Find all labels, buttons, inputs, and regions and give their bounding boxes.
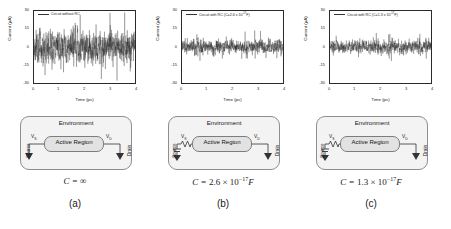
plot-frame-c — [329, 10, 432, 84]
x-tick-b-2: 2 — [227, 86, 237, 91]
source-label-b: Source — [172, 143, 177, 158]
legend-b: Circuit with RC (C=2.6 x 10-17F) — [186, 12, 250, 17]
caption-formula-c: C = 1.3 × 10−17F — [296, 176, 446, 187]
caption-formula-b: C = 2.6 × 10−17F — [148, 176, 298, 187]
x-tick-b-1: 1 — [201, 86, 211, 91]
panel-b: Current (µA) 30 15 0 -15 -30 Circuit wit… — [148, 0, 298, 229]
legend-line-a — [38, 14, 49, 15]
panel-c: Current (µA) 30 15 0 -15 -30 Circuit wit… — [296, 0, 446, 229]
y-tick-b-0: 30 — [161, 7, 177, 12]
circuit-diagram-c: Environment Active Region Source Drain V… — [296, 112, 446, 174]
noise-trace-c — [330, 11, 431, 83]
circuit-diagram-b: Environment Active Region Source Drain V… — [148, 112, 298, 174]
source-label-c: Source — [320, 143, 325, 158]
noise-trace-a — [34, 11, 135, 83]
legend-line-c — [334, 14, 345, 15]
y-tick-a-2: 0 — [13, 44, 29, 49]
y-axis-label-c: Current (µA) — [303, 4, 308, 54]
legend-label-b: Circuit with RC (C=2.6 x 10-17F) — [199, 12, 250, 17]
x-tick-a-4: 4 — [131, 86, 141, 91]
legend-a: Circuit without RC — [38, 12, 80, 16]
x-tick-b-3: 3 — [253, 86, 263, 91]
y-tick-a-4: -30 — [13, 80, 29, 85]
x-tick-a-3: 3 — [105, 86, 115, 91]
plot-c: Current (µA) 30 15 0 -15 -30 Circuit wit… — [296, 0, 446, 110]
panel-a: Current (µA) 30 15 0 -15 -30 Circuit wit… — [0, 0, 150, 229]
y-tick-c-0: 30 — [309, 7, 325, 12]
caption-letter-c: (c) — [296, 198, 446, 209]
vs-label-c: VS — [329, 134, 334, 141]
x-tick-c-1: 1 — [349, 86, 359, 91]
x-tick-c-4: 4 — [427, 86, 437, 91]
x-tick-c-0: 0 — [324, 86, 334, 91]
legend-line-b — [186, 14, 197, 15]
vd-label-a: VD — [106, 134, 112, 141]
x-tick-c-3: 3 — [401, 86, 411, 91]
y-axis-label-b: Current (µA) — [155, 4, 160, 54]
legend-label-c: Circuit with RC (C=1.3 x 10-17F) — [347, 12, 398, 17]
active-region-label-c: Active Region — [340, 139, 400, 145]
y-tick-a-0: 30 — [13, 7, 29, 12]
x-tick-a-0: 0 — [28, 86, 38, 91]
y-tick-a-3: -15 — [13, 62, 29, 67]
x-axis-label-a: Time (ps) — [33, 97, 136, 102]
x-tick-c-2: 2 — [375, 86, 385, 91]
y-tick-b-3: -15 — [161, 62, 177, 67]
noise-trace-b — [182, 11, 283, 83]
vs-label-b: VS — [181, 134, 186, 141]
caption-formula-a: C = ∞ — [0, 176, 150, 186]
plot-b: Current (µA) 30 15 0 -15 -30 Circuit wit… — [148, 0, 298, 110]
x-tick-b-4: 4 — [279, 86, 289, 91]
plot-a: Current (µA) 30 15 0 -15 -30 Circuit wit… — [0, 0, 150, 110]
x-tick-a-1: 1 — [53, 86, 63, 91]
legend-c: Circuit with RC (C=1.3 x 10-17F) — [334, 12, 398, 17]
figure-root: Current (µA) 30 15 0 -15 -30 Circuit wit… — [0, 0, 451, 229]
vd-label-c: VD — [402, 134, 408, 141]
y-tick-a-1: 15 — [13, 25, 29, 30]
caption-letter-a: (a) — [0, 198, 150, 209]
y-tick-c-3: -15 — [309, 62, 325, 67]
circuit-diagram-a: Environment Active Region Source Drain V… — [0, 112, 150, 174]
drain-label-a: Drain — [127, 145, 132, 156]
plot-frame-b — [181, 10, 284, 84]
y-tick-b-1: 15 — [161, 25, 177, 30]
source-label-a: Source — [26, 143, 31, 158]
y-tick-c-1: 15 — [309, 25, 325, 30]
active-region-label-b: Active Region — [192, 139, 252, 145]
x-tick-b-0: 0 — [176, 86, 186, 91]
y-axis-label-a: Current (µA) — [7, 4, 12, 54]
y-tick-c-2: 0 — [309, 44, 325, 49]
active-region-label-a: Active Region — [44, 139, 104, 145]
legend-label-a: Circuit without RC — [51, 12, 80, 16]
y-tick-b-4: -30 — [161, 80, 177, 85]
x-axis-label-b: Time (ps) — [181, 97, 284, 102]
vs-label-a: VS — [31, 134, 36, 141]
x-tick-a-2: 2 — [79, 86, 89, 91]
caption-letter-b: (b) — [148, 198, 298, 209]
x-axis-label-c: Time (ps) — [329, 97, 432, 102]
drain-label-b: Drain — [275, 145, 280, 156]
plot-frame-a — [33, 10, 136, 84]
y-tick-c-4: -30 — [309, 80, 325, 85]
y-tick-b-2: 0 — [161, 44, 177, 49]
drain-label-c: Drain — [423, 145, 428, 156]
vd-label-b: VD — [254, 134, 260, 141]
